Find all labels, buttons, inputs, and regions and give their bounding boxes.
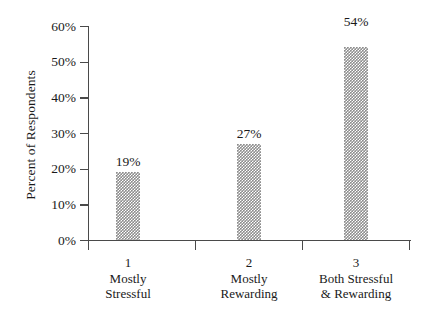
y-axis-tick <box>80 62 88 63</box>
bar-chart: Percent of Respondents 60% 50% 40% 30% 2… <box>0 0 430 319</box>
y-axis-line <box>88 26 89 241</box>
x-axis-category-label-3: 3 Both Stressful & Rewarding <box>298 255 414 302</box>
bar-category-1 <box>116 172 140 240</box>
category-line2-1: Stressful <box>78 286 178 302</box>
y-axis-tick <box>80 26 88 27</box>
x-axis-tick <box>195 241 196 250</box>
y-axis-title: Percent of Respondents <box>23 42 39 228</box>
bar-value-label-3: 54% <box>326 15 386 29</box>
category-number-2: 2 <box>199 255 299 271</box>
y-axis-tick-label: 60% <box>51 20 76 34</box>
y-axis-tick-label: 50% <box>51 55 76 69</box>
y-axis-tick <box>80 169 88 170</box>
category-line2-2: Rewarding <box>199 286 299 302</box>
y-axis-tick <box>80 133 88 134</box>
y-axis-tick <box>80 240 88 241</box>
x-axis-tick <box>88 241 89 250</box>
y-axis-tick-label: 10% <box>51 198 76 212</box>
bar-value-label-1: 19% <box>98 155 158 169</box>
category-line1-3: Both Stressful <box>298 271 414 287</box>
y-axis-tick-label: 0% <box>58 234 76 248</box>
bar-value-label-2: 27% <box>219 127 279 141</box>
bar-category-2 <box>237 144 261 240</box>
category-line1-1: Mostly <box>78 271 178 287</box>
y-axis-tick-label: 40% <box>51 91 76 105</box>
y-axis-tick-label: 20% <box>51 162 76 176</box>
x-axis-category-label-2: 2 Mostly Rewarding <box>199 255 299 302</box>
y-axis-tick <box>80 204 88 205</box>
category-number-1: 1 <box>78 255 178 271</box>
category-number-3: 3 <box>298 255 414 271</box>
y-axis-tick-label: 30% <box>51 127 76 141</box>
category-line1-2: Mostly <box>199 271 299 287</box>
x-axis-line <box>88 240 411 241</box>
x-axis-tick <box>302 241 303 250</box>
x-axis-tick <box>409 241 410 250</box>
bar-category-3 <box>344 47 368 240</box>
category-line2-3: & Rewarding <box>298 286 414 302</box>
x-axis-category-label-1: 1 Mostly Stressful <box>78 255 178 302</box>
y-axis-tick <box>80 97 88 98</box>
